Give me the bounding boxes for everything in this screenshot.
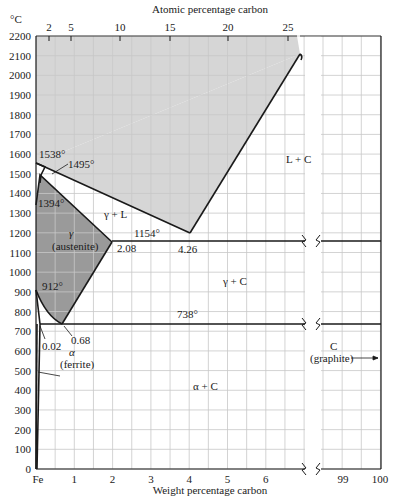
y-tick-label: 400 <box>15 384 32 396</box>
label-gamma-C: γ + C <box>222 275 247 287</box>
y-tick-label: 1900 <box>9 89 32 101</box>
x2-tick-label: 2 <box>46 21 52 33</box>
y-tick-label: 1500 <box>9 168 32 180</box>
x2-tick-label: 5 <box>68 21 74 33</box>
label-gamma: γ <box>69 227 74 239</box>
label-ferrite: (ferrite) <box>60 358 95 371</box>
y-tick-label: 2100 <box>9 50 32 62</box>
y-tick-label: 2000 <box>9 69 32 81</box>
label-alpha-C: α + C <box>193 380 218 392</box>
label-738: 738° <box>177 308 198 320</box>
label-1538: 1538° <box>39 148 65 160</box>
x-tick-label: 1 <box>72 473 78 485</box>
y-tick-label: 500 <box>15 365 32 377</box>
label-C: C <box>330 340 337 352</box>
x2-tick-label: 20 <box>223 21 235 33</box>
y-tick-label: 600 <box>15 345 32 357</box>
x-tick-label: 2 <box>110 473 116 485</box>
y-tick-label: 1300 <box>9 207 32 219</box>
label-912: 912° <box>42 280 63 292</box>
y-tick-label: 300 <box>15 404 32 416</box>
y-tick-label: 1000 <box>9 266 32 278</box>
phase-diagram: 2200210020001900180017001600150014001300… <box>0 0 395 501</box>
label-L-C: L + C <box>286 153 311 165</box>
y-tick-label: 2200 <box>9 30 32 42</box>
label-alpha: α <box>69 346 75 358</box>
x2-tick-label: 15 <box>165 21 177 33</box>
x-tick-label: 100 <box>372 473 389 485</box>
x-axis-title: Weight percentage carbon <box>153 484 268 496</box>
x2-tick-label: 10 <box>115 21 127 33</box>
label-0.68: 0.68 <box>71 334 91 346</box>
label-austenite: (austenite) <box>52 240 99 253</box>
y-tick-labels: 2200210020001900180017001600150014001300… <box>9 30 32 475</box>
label-1495: 1495° <box>68 158 94 170</box>
x2-tick-label: 25 <box>283 21 295 33</box>
y-tick-label: 1700 <box>9 128 32 140</box>
label-4.26: 4.26 <box>178 243 198 255</box>
y-tick-label: 1800 <box>9 109 32 121</box>
y-tick-label: 1600 <box>9 148 32 160</box>
y-tick-label: 700 <box>15 325 32 337</box>
x2-axis-title: Atomic percentage carbon <box>152 3 269 15</box>
label-0.02: 0.02 <box>42 340 61 352</box>
y-tick-label: 0 <box>26 463 32 475</box>
label-1394: 1394° <box>38 197 64 209</box>
x-tick-label: 99 <box>338 473 350 485</box>
label-gamma-L: γ + L <box>103 208 128 220</box>
y-axis-unit: °C <box>10 13 22 25</box>
y-tick-label: 800 <box>15 306 32 318</box>
label-1154: 1154° <box>134 227 160 239</box>
label-graphite: (graphite) <box>310 352 354 365</box>
y-tick-label: 200 <box>15 424 32 436</box>
label-2.08: 2.08 <box>117 242 137 254</box>
y-tick-label: 900 <box>15 286 32 298</box>
axis-break-gap <box>305 36 321 470</box>
y-tick-label: 1400 <box>9 187 32 199</box>
y-tick-label: 1100 <box>9 247 31 259</box>
y-tick-label: 1200 <box>9 227 32 239</box>
x-tick-label: Fe <box>33 473 44 485</box>
y-tick-label: 100 <box>15 443 32 455</box>
